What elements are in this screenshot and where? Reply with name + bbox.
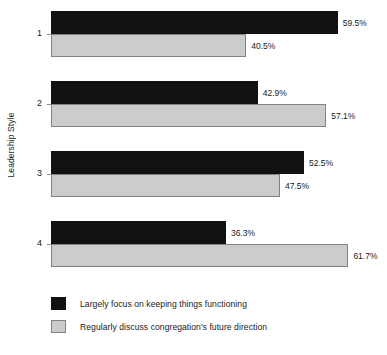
black-swatch — [51, 297, 66, 310]
bar-gray — [51, 244, 348, 267]
legend-item[interactable]: Largely focus on keeping things function… — [51, 292, 381, 315]
bar-value-label: 40.5% — [251, 42, 275, 51]
bar-value-label: 47.5% — [285, 182, 309, 191]
bar-value-label: 61.7% — [353, 252, 377, 261]
bar-gray — [51, 104, 326, 127]
bar-value-label: 57.1% — [331, 112, 355, 121]
gray-swatch — [51, 320, 66, 333]
bar-gray — [51, 34, 246, 57]
bar-group: 352.5%47.5% — [0, 151, 387, 197]
bar-group: 436.3%61.7% — [0, 221, 387, 267]
chart-legend: Largely focus on keeping things function… — [51, 292, 381, 338]
category-label: 3 — [24, 168, 42, 178]
bar-value-label: 52.5% — [309, 159, 333, 168]
bar-black — [51, 11, 338, 34]
bar-value-label: 59.5% — [343, 19, 367, 28]
bar-gray — [51, 174, 280, 197]
legend-item-label: Largely focus on keeping things function… — [80, 299, 247, 309]
bar-group: 159.5%40.5% — [0, 11, 387, 57]
plot-area: 159.5%40.5%242.9%57.1%352.5%47.5%436.3%6… — [0, 0, 387, 288]
bar-group: 242.9%57.1% — [0, 81, 387, 127]
bar-chart: Leadership Style 159.5%40.5%242.9%57.1%3… — [0, 0, 387, 355]
category-label: 1 — [24, 28, 42, 38]
bar-black — [51, 81, 258, 104]
category-label: 4 — [24, 238, 42, 248]
bar-black — [51, 151, 304, 174]
legend-item[interactable]: Regularly discuss congregation's future … — [51, 315, 381, 338]
legend-item-label: Regularly discuss congregation's future … — [80, 322, 267, 332]
category-label: 2 — [24, 98, 42, 108]
bar-value-label: 36.3% — [231, 229, 255, 238]
bar-value-label: 42.9% — [263, 89, 287, 98]
bar-black — [51, 221, 226, 244]
